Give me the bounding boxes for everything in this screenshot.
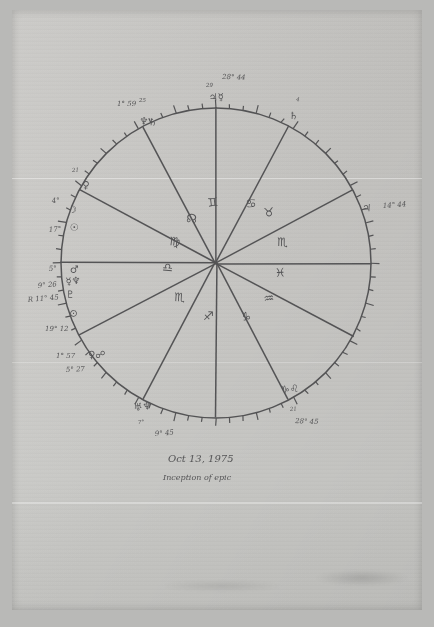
degree-tick bbox=[201, 418, 202, 422]
sign-glyph-gemini: ♋ bbox=[245, 196, 257, 211]
degree-tick bbox=[293, 397, 297, 404]
rim-planet-glyph-left-asc: ♀ bbox=[82, 179, 90, 191]
chart-caption-date: Oct 13, 1975 bbox=[168, 453, 234, 464]
rim-degree-left-low: 19° 12 bbox=[45, 325, 69, 333]
degree-tick bbox=[94, 363, 98, 367]
degree-tick bbox=[343, 352, 348, 354]
sign-glyph-libra: ♎ bbox=[162, 260, 174, 275]
sign-glyph-north node: ☊ bbox=[186, 211, 198, 226]
rim-planet-glyph-upper-right: ♄ bbox=[289, 110, 298, 121]
cusp-line-cusp-4 bbox=[215, 263, 216, 418]
rim-minute-lower-right: 21 bbox=[288, 405, 297, 412]
degree-tick bbox=[124, 133, 126, 137]
degree-tick bbox=[370, 249, 376, 250]
degree-tick bbox=[361, 316, 365, 317]
degree-tick bbox=[93, 160, 97, 163]
rim-planet-glyph-left-low: ⊙ bbox=[69, 307, 79, 319]
rim-degree-lower-right: 28° 45 bbox=[294, 417, 319, 426]
rim-planet-glyph-lower-left-a: ♀☍ bbox=[88, 349, 106, 360]
rim-planet-glyph-left-moon: ☽ bbox=[68, 204, 77, 215]
degree-tick bbox=[174, 413, 176, 421]
degree-tick bbox=[58, 290, 63, 291]
degree-tick bbox=[315, 140, 318, 145]
scan-backdrop: ♋♊☊♍♎♏♐♑♒♓♏♉ 28° 4429♃☿4♄14° 44♃28° 4521… bbox=[0, 0, 434, 627]
degree-tick bbox=[101, 148, 107, 153]
rim-planet-glyph-upper-left: ♆♄ bbox=[139, 115, 158, 128]
zodiac-sign-glyphs: ♋♊☊♍♎♏♐♑♒♓♏♉ bbox=[162, 195, 288, 324]
rim-minute-upper-left: 25 bbox=[138, 97, 147, 103]
rim-degree-lower-left-a: 1° 57 bbox=[56, 352, 76, 360]
rim-degree-bottom: 9° 45 bbox=[155, 428, 175, 438]
rim-minute-left-asc: 21 bbox=[71, 167, 79, 173]
degree-tick bbox=[188, 105, 189, 110]
degree-tick bbox=[58, 235, 63, 236]
degree-tick bbox=[293, 121, 298, 128]
rim-degree-top: 28° 44 bbox=[221, 73, 246, 82]
degree-tick bbox=[369, 235, 374, 236]
degree-tick bbox=[356, 195, 361, 197]
degree-tick bbox=[269, 113, 271, 117]
rim-planet-glyph-right: ♃ bbox=[362, 202, 372, 213]
degree-tick bbox=[326, 373, 331, 379]
degree-tick bbox=[71, 195, 76, 197]
degree-tick bbox=[365, 303, 373, 306]
degree-tick bbox=[75, 340, 82, 345]
degree-tick bbox=[281, 119, 284, 122]
degree-tick bbox=[75, 181, 81, 186]
degree-tick bbox=[335, 161, 338, 163]
degree-tick bbox=[202, 104, 203, 109]
degree-tick bbox=[113, 140, 117, 144]
degree-tick bbox=[58, 303, 67, 305]
degree-tick bbox=[369, 289, 374, 290]
sign-glyph-scorpio-b: ♏ bbox=[277, 235, 288, 249]
degree-tick bbox=[366, 221, 373, 223]
degree-tick bbox=[305, 132, 308, 136]
chart-caption-note: Inception of epic bbox=[162, 473, 232, 482]
degree-tick bbox=[357, 328, 361, 331]
degree-tick bbox=[134, 121, 138, 128]
degree-tick bbox=[350, 182, 357, 186]
sign-glyph-capricorn: ♑ bbox=[240, 309, 252, 324]
degree-tick bbox=[188, 415, 189, 420]
rim-degree-left-mars: 5° bbox=[49, 264, 58, 273]
rim-minute-bottom: 7° bbox=[138, 419, 145, 425]
degree-tick bbox=[161, 409, 163, 414]
rim-degree-left-moon: 4° bbox=[51, 196, 61, 205]
rim-planet-glyph-bottom: ♅♆ bbox=[133, 400, 152, 413]
rim-degree-lower-left-b: 5° 27 bbox=[66, 365, 86, 374]
rim-planet-glyph-left-sun: ☉ bbox=[70, 222, 80, 233]
sign-glyph-taurus: ♉ bbox=[263, 205, 275, 220]
degree-tick bbox=[350, 341, 357, 345]
rim-degree-upper-left: 1° 59 bbox=[117, 100, 137, 108]
degree-tick bbox=[101, 372, 106, 378]
sign-glyph-aquarius: ♒ bbox=[263, 291, 275, 306]
sign-glyph-pisces: ♓ bbox=[274, 266, 285, 280]
cusp-line-cusp-8 bbox=[215, 190, 353, 263]
degree-tick bbox=[326, 148, 331, 153]
degree-tick bbox=[315, 381, 318, 385]
degree-tick bbox=[343, 171, 347, 175]
rim-minute-upper-right: 4 bbox=[295, 96, 301, 102]
degree-tick bbox=[113, 382, 116, 386]
degree-tick bbox=[305, 390, 308, 393]
rim-minute-top: 29 bbox=[205, 82, 214, 88]
rim-planet-glyph-lower-right: ♑♌ bbox=[280, 383, 299, 395]
rim-planet-glyph-left-merc: ☿♆ bbox=[65, 275, 81, 287]
rim-degree-right: 14° 44 bbox=[383, 200, 407, 210]
rim-degree-left-sun: 17° bbox=[49, 225, 62, 234]
degree-tick bbox=[256, 105, 258, 113]
sign-glyph-scorpio: ♏ bbox=[174, 290, 186, 305]
degree-tick bbox=[256, 412, 258, 420]
astrological-chart: ♋♊☊♍♎♏♐♑♒♓♏♉ 28° 4429♃☿4♄14° 44♃28° 4521… bbox=[0, 0, 434, 627]
degree-tick bbox=[334, 362, 339, 366]
rim-planet-glyph-left-plu: ♇ bbox=[66, 289, 75, 300]
degree-tick bbox=[125, 390, 127, 394]
rim-degree-left-plu: R 11° 45 bbox=[26, 293, 59, 304]
degree-tick bbox=[85, 171, 89, 174]
sign-glyph-sagittarius: ♐ bbox=[203, 309, 214, 323]
degree-tick bbox=[216, 418, 217, 426]
sign-glyph-cancer: ♊ bbox=[207, 195, 219, 210]
degree-tick bbox=[174, 105, 177, 113]
rim-degree-left-merc: 9° 26 bbox=[37, 280, 57, 290]
rim-planet-glyph-top: ♃☿ bbox=[208, 91, 224, 103]
